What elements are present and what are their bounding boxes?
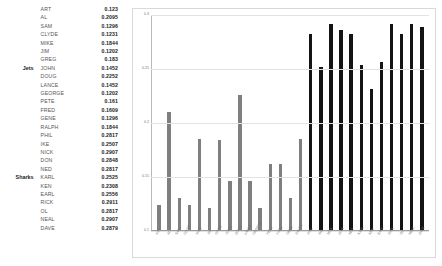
player-name: FRED [39, 106, 80, 114]
bar [410, 24, 413, 230]
y-axis-tick-label: 0.25 [142, 67, 149, 71]
group-label [0, 47, 39, 55]
group-label [0, 190, 39, 198]
player-name: KARL [39, 173, 80, 181]
player-value: 0.123 [80, 5, 128, 13]
table-row: MIKE0.1844 [0, 39, 128, 47]
x-axis-tick-label: DON [338, 227, 345, 235]
x-axis-label-slot: GREG [215, 233, 225, 257]
table-row: LANCE0.1452 [0, 81, 128, 89]
x-axis-label-slot: JOHN [225, 233, 235, 257]
bar [420, 27, 423, 230]
table-row: NICK0.2907 [0, 148, 128, 156]
table-row: SharksKARL0.2525 [0, 173, 128, 181]
player-value: 0.1452 [80, 64, 128, 72]
bar [299, 139, 302, 230]
player-name: KEN [39, 182, 80, 190]
player-name: LANCE [39, 81, 80, 89]
player-name: OL [39, 207, 80, 215]
table-row: GEORGE0.1202 [0, 89, 128, 97]
table-row: OL0.2817 [0, 207, 128, 215]
table-row: GENE0.1296 [0, 114, 128, 122]
bar [178, 198, 181, 230]
x-axis-label-slot: KEN [367, 233, 377, 257]
player-value: 0.2525 [80, 173, 128, 181]
group-label [0, 140, 39, 148]
group-label [0, 114, 39, 122]
x-axis-tick-label: AL [167, 230, 172, 235]
bar [329, 24, 332, 230]
player-value: 0.2817 [80, 165, 128, 173]
table-row: NEAL0.2907 [0, 215, 128, 223]
group-label [0, 148, 39, 156]
bar [157, 205, 160, 230]
player-name: RALPH [39, 123, 80, 131]
x-axis-label-slot: IKE [316, 233, 326, 257]
bar [167, 112, 170, 230]
data-table-panel: ART0.123AL0.2095SAM0.1296CLYDE0.1231MIKE… [0, 0, 128, 266]
bar [319, 67, 322, 230]
group-label [0, 123, 39, 131]
group-label [0, 55, 39, 63]
bar [218, 140, 221, 230]
group-label [0, 106, 39, 114]
bar [360, 65, 363, 230]
group-label [0, 30, 39, 38]
player-name: RICK [39, 198, 80, 206]
y-axis-tick-label: 0.2 [144, 121, 149, 125]
table-row: PETE0.161 [0, 97, 128, 105]
table-row: EARL0.2556 [0, 190, 128, 198]
bar [370, 89, 373, 230]
player-name: MIKE [39, 39, 80, 47]
player-value: 0.2879 [80, 224, 128, 232]
table-row: GREG0.183 [0, 55, 128, 63]
player-name: DOUG [39, 72, 80, 80]
screenshot-root: ART0.123AL0.2095SAM0.1296CLYDE0.1231MIKE… [0, 0, 442, 266]
x-axis-label-slot: RICK [387, 233, 397, 257]
x-axis-label-slot: GEORGE [255, 233, 265, 257]
y-axis-tick-label: 0.1 [144, 229, 149, 233]
group-label [0, 198, 39, 206]
bar-chart: 0.10.150.20.250.3 ARTALSAMCLYDEMIKEJIMGR… [132, 8, 436, 258]
player-value: 0.1844 [80, 39, 128, 47]
player-value: 0.2911 [80, 198, 128, 206]
table-row: NED0.2817 [0, 165, 128, 173]
table-row: DOUG0.2252 [0, 72, 128, 80]
chart-inner: 0.10.150.20.250.3 ARTALSAMCLYDEMIKEJIMGR… [133, 9, 435, 257]
bar [339, 30, 342, 230]
group-label [0, 13, 39, 21]
gridline [151, 15, 429, 16]
bar [198, 139, 201, 230]
x-axis-label-slot: DAVE [418, 233, 428, 257]
x-axis-label-slot: EARL [377, 233, 387, 257]
player-value: 0.1296 [80, 114, 128, 122]
player-value: 0.2252 [80, 72, 128, 80]
bar [238, 95, 241, 230]
bar [309, 34, 312, 230]
table-row: RALPH0.1844 [0, 123, 128, 131]
x-axis-label-slot: DON [337, 233, 347, 257]
player-value: 0.1609 [80, 106, 128, 114]
table-row: DAVE0.2879 [0, 224, 128, 232]
player-name: ART [39, 5, 80, 13]
player-name: PETE [39, 97, 80, 105]
group-label [0, 207, 39, 215]
x-axis-label-slot: PHIL [306, 233, 316, 257]
gridline [151, 177, 429, 178]
player-value: 0.2907 [80, 215, 128, 223]
x-axis-label-slot: JIM [205, 233, 215, 257]
plot-area: 0.10.150.20.250.3 [151, 15, 429, 231]
player-name: GEORGE [39, 89, 80, 97]
group-label [0, 215, 39, 223]
player-name: NICK [39, 148, 80, 156]
player-value: 0.2848 [80, 156, 128, 164]
table-row: CLYDE0.1231 [0, 30, 128, 38]
x-axis-label-slot: ART [154, 233, 164, 257]
x-axis-label-slot: LANCE [245, 233, 255, 257]
player-value: 0.1202 [80, 47, 128, 55]
player-name: NED [39, 165, 80, 173]
group-label [0, 182, 39, 190]
player-value: 0.2507 [80, 140, 128, 148]
x-axis-label-slot: FRED [276, 233, 286, 257]
x-axis-label-slot: AL [164, 233, 174, 257]
